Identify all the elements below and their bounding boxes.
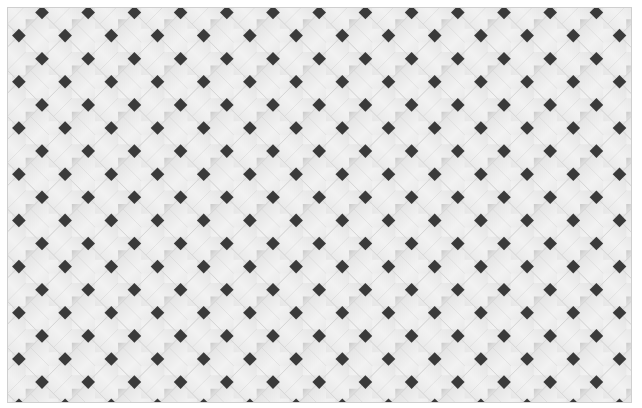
weave-pattern — [7, 7, 632, 403]
woven-lattice-panel — [7, 7, 632, 403]
